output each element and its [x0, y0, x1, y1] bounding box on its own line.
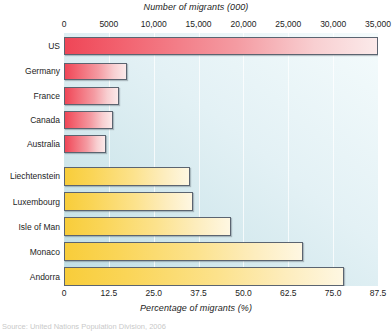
bar-australia: [64, 135, 106, 153]
axis-tick-label: 35,000: [365, 19, 391, 29]
axis-tick-label: 25,000: [275, 19, 301, 29]
bar-andorra: [64, 267, 344, 286]
axis-tick-label: 37.5: [190, 288, 207, 298]
plot-area: [64, 33, 378, 286]
category-label: Canada: [30, 115, 60, 125]
axis-tick-label: 75.0: [325, 288, 342, 298]
gridline: [333, 33, 334, 286]
category-label: Monaco: [30, 247, 60, 257]
axis-tick-label: 10,000: [141, 19, 167, 29]
category-label: Liechtenstein: [10, 171, 60, 181]
axis-tick-label: 15,000: [186, 19, 212, 29]
axis-tick-label: 25.0: [145, 288, 162, 298]
axis-tick-label: 87.5: [370, 288, 387, 298]
bottom-axis-tick-labels: 012.525.037.550.062.575.087.5: [0, 288, 392, 300]
top-axis-tick-labels: 0500010,00015,00020,00025,00030,00035,00…: [0, 19, 392, 31]
bar-liechtenstein: [64, 167, 190, 186]
top-axis-title: Number of migrants (000): [0, 2, 392, 12]
axis-tick-label: 20,000: [230, 19, 256, 29]
category-label: Australia: [27, 139, 60, 149]
axis-tick-label: 12.5: [101, 288, 118, 298]
category-label: Germany: [25, 66, 60, 76]
bottom-axis-title: Percentage of migrants (%): [0, 303, 392, 313]
bar-luxembourg: [64, 192, 193, 211]
bar-monaco: [64, 242, 303, 261]
axis-tick-label: 30,000: [320, 19, 346, 29]
bar-isle-of-man: [64, 217, 231, 236]
category-label: Andorra: [30, 272, 60, 282]
axis-tick-label: 5000: [99, 19, 118, 29]
category-labels: USGermanyFranceCanadaAustraliaLiechtenst…: [0, 33, 60, 286]
axis-tick-label: 62.5: [280, 288, 297, 298]
category-label: Isle of Man: [18, 222, 60, 232]
category-label: France: [34, 91, 60, 101]
category-label: US: [48, 41, 60, 51]
bar-france: [64, 87, 119, 105]
axis-tick-label: 50.0: [235, 288, 252, 298]
bar-canada: [64, 111, 113, 129]
bar-us: [64, 37, 378, 56]
axis-tick-label: 0: [62, 288, 67, 298]
bar-germany: [64, 63, 127, 81]
source-caption: Source: United Nations Population Divisi…: [2, 322, 166, 331]
category-label: Luxembourg: [13, 197, 60, 207]
axis-tick-label: 0: [62, 19, 67, 29]
